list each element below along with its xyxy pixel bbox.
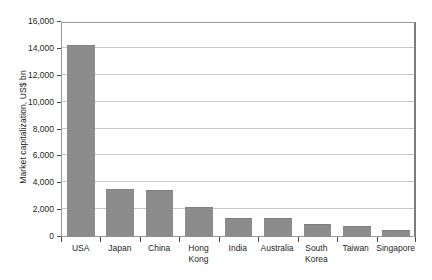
bar-usa <box>67 45 95 237</box>
y-tick-label: 0 <box>49 230 54 242</box>
x-tick-mark <box>179 237 180 242</box>
y-axis-tick: 8,000 <box>0 129 61 130</box>
bar-slot <box>61 22 100 237</box>
bar-singapore <box>382 230 410 237</box>
x-axis-label-south-korea: South Korea <box>297 243 336 277</box>
bar-taiwan <box>343 226 371 237</box>
x-tick-mark <box>377 237 378 242</box>
bar-slot <box>100 22 139 237</box>
y-axis-tick: 16,000 <box>0 21 61 22</box>
x-tick-mark <box>140 237 141 242</box>
y-axis-tick: 10,000 <box>0 102 61 103</box>
bar-slot <box>298 22 337 237</box>
bar-slot <box>337 22 376 237</box>
bars-group <box>61 22 416 237</box>
bar-slot <box>377 22 416 237</box>
y-tick-label: 10,000 <box>28 96 54 108</box>
y-tick-label: 12,000 <box>28 69 54 81</box>
y-axis-tick: 14,000 <box>0 48 61 49</box>
y-tick-label: 8,000 <box>33 123 54 135</box>
bar-slot <box>179 22 218 237</box>
x-axis-label-australia: Australia <box>257 243 296 277</box>
bar-slot <box>258 22 297 237</box>
bar-china <box>146 190 174 237</box>
x-axis-label-japan: Japan <box>100 243 139 277</box>
x-tick-mark <box>415 237 416 242</box>
y-axis-tick: 0 <box>0 236 61 237</box>
bar-slot <box>140 22 179 237</box>
y-tick-label: 6,000 <box>33 149 54 161</box>
bar-chart: Market capitalization, US$ bn 02,0004,00… <box>0 0 432 280</box>
bar-slot <box>219 22 258 237</box>
bar-india <box>225 218 253 237</box>
x-tick-mark <box>61 237 62 242</box>
x-axis-label-taiwan: Taiwan <box>336 243 375 277</box>
y-tick-label: 14,000 <box>28 42 54 54</box>
x-axis-ticks <box>61 237 416 242</box>
y-tick-label: 16,000 <box>28 15 54 27</box>
x-axis-labels: USAJapanChinaHong KongIndiaAustraliaSout… <box>61 243 416 277</box>
x-tick-mark <box>100 237 101 242</box>
bar-hong-kong <box>185 207 213 237</box>
y-tick-label: 2,000 <box>33 203 54 215</box>
bar-south-korea <box>304 224 332 237</box>
bar-australia <box>264 218 292 237</box>
x-tick-mark <box>258 237 259 242</box>
y-axis-tick: 4,000 <box>0 182 61 183</box>
y-axis-tick: 12,000 <box>0 75 61 76</box>
x-axis-label-india: India <box>218 243 257 277</box>
x-tick-mark <box>219 237 220 242</box>
bar-japan <box>106 189 134 237</box>
y-axis-tick: 2,000 <box>0 209 61 210</box>
x-axis-label-hong-kong: Hong Kong <box>179 243 218 277</box>
x-tick-mark <box>337 237 338 242</box>
x-axis-label-usa: USA <box>61 243 100 277</box>
y-axis: 02,0004,0006,0008,00010,00012,00014,0001… <box>0 22 61 237</box>
x-tick-mark <box>298 237 299 242</box>
x-axis-label-china: China <box>140 243 179 277</box>
y-axis-tick: 6,000 <box>0 155 61 156</box>
x-axis-label-singapore: Singapore <box>375 243 416 277</box>
y-tick-label: 4,000 <box>33 176 54 188</box>
